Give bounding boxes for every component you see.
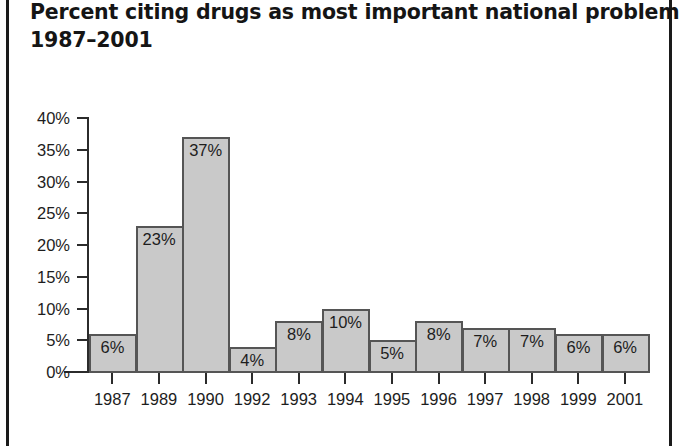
bar-value-label: 10% — [322, 313, 370, 332]
y-axis-tick — [77, 371, 87, 373]
x-axis-tick — [577, 373, 579, 384]
bar-value-label: 6% — [89, 338, 137, 357]
y-axis-tick — [77, 149, 87, 151]
x-axis-tick — [531, 373, 533, 384]
bar-value-label: 5% — [368, 344, 416, 363]
x-axis-tick — [344, 373, 346, 384]
y-axis-tick-label: 10% — [0, 299, 70, 318]
y-axis-tick-label: 35% — [0, 140, 70, 159]
bar-value-label: 8% — [415, 325, 463, 344]
bar-value-label: 37% — [182, 141, 230, 160]
y-axis-tick — [77, 212, 87, 214]
y-axis-tick-label: 40% — [0, 109, 70, 128]
bar-value-label: 6% — [601, 338, 649, 357]
y-axis-tick-label: 15% — [0, 267, 70, 286]
y-axis-tick-label: 5% — [0, 331, 70, 350]
x-axis-tick — [438, 373, 440, 384]
y-axis-tick — [77, 276, 87, 278]
x-axis-tick — [251, 373, 253, 384]
x-axis-tick — [624, 373, 626, 384]
plot-area: 0%5%10%15%20%25%30%35%40% 6%23%37%4%8%10… — [0, 0, 679, 446]
bar-value-label: 6% — [555, 338, 603, 357]
y-axis-tick — [77, 117, 87, 119]
y-axis-tick — [77, 244, 87, 246]
y-axis-tick-label: 25% — [0, 204, 70, 223]
chart-page: Percent citing drugs as most important n… — [0, 0, 679, 446]
x-axis-tick — [484, 373, 486, 384]
bar-value-label: 7% — [461, 332, 509, 351]
x-axis-tick — [111, 373, 113, 384]
y-axis-tick — [77, 308, 87, 310]
y-axis-tick — [77, 339, 87, 341]
y-axis-tick-label: 0% — [0, 363, 70, 382]
x-axis-tick — [298, 373, 300, 384]
x-axis-tick — [205, 373, 207, 384]
bar — [182, 137, 230, 373]
y-axis-tick-label: 30% — [0, 172, 70, 191]
y-axis-tick — [77, 181, 87, 183]
y-axis-tick-label: 20% — [0, 236, 70, 255]
bar-value-label: 4% — [228, 351, 276, 370]
x-axis-tick-label: 2001 — [590, 390, 660, 409]
x-axis-tick — [391, 373, 393, 384]
bar-value-label: 23% — [135, 230, 183, 249]
x-axis-tick — [158, 373, 160, 384]
bar-value-label: 7% — [508, 332, 556, 351]
bar-value-label: 8% — [275, 325, 323, 344]
